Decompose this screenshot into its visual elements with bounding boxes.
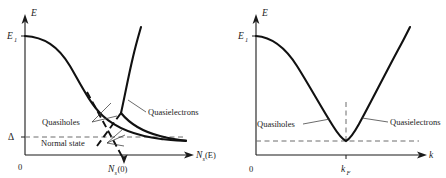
right-x-tick-label-kF: k F [341,164,351,176]
left-plot-svg: E E 1 Δ 0 N s (0) N s (E) Quasiholes Qua… [0,0,223,178]
right-x-axis [256,152,427,159]
right-quasiholes-leader [303,119,330,124]
quasielectrons-rising-curve [121,27,141,113]
construction-arrowhead [120,155,127,165]
left-annotation-quasiholes: Quasiholes [42,117,80,127]
left-x-axis-label: N s (E) [195,150,216,162]
svg-text:(0): (0) [118,164,128,174]
right-x-axis-label: k [429,150,434,160]
right-quasielectrons-leader [362,118,388,122]
svg-text:1: 1 [245,36,248,43]
right-annotation-quasiholes: Quasiholes [257,119,295,129]
left-y-tick-label-delta: Δ [8,132,14,142]
svg-text:1: 1 [14,36,17,43]
svg-text:E: E [237,31,244,41]
quasielectrons-leader [128,100,146,112]
panel-density-of-states: E E 1 Δ 0 N s (0) N s (E) Quasiholes Qua… [0,0,223,178]
svg-text:F: F [346,169,351,176]
left-y-tick-label-E1: E 1 [6,31,17,43]
left-y-axis-label: E [30,8,37,18]
left-x-tick-label-ns0: N s (0) [107,164,128,176]
normal-state-leader-a [107,135,125,143]
right-annotation-quasielectrons: Quasielectrons [390,117,441,127]
svg-text:k: k [341,164,346,174]
left-origin-label: 0 [18,162,22,172]
right-y-axis-label: E [261,8,268,18]
physics-figure: E E 1 Δ 0 N s (0) N s (E) Quasiholes Qua… [0,0,446,178]
left-annotation-quasielectrons: Quasielectrons [148,107,199,117]
right-y-tick-label-E1: E 1 [237,31,248,43]
normal-state-leader-c [107,129,123,143]
left-x-axis [25,152,194,159]
svg-text:(E): (E) [205,150,216,160]
left-annotation-normal-state: Normal state [41,138,85,148]
quasielectrons-tail-curve [121,113,186,141]
right-origin-label: 0 [249,164,253,174]
panel-dispersion: E E 1 0 k F k Quasiholes Quasielectrons [223,0,446,178]
svg-text:E: E [6,31,13,41]
right-plot-svg: E E 1 0 k F k Quasiholes Quasielectrons [223,0,446,178]
